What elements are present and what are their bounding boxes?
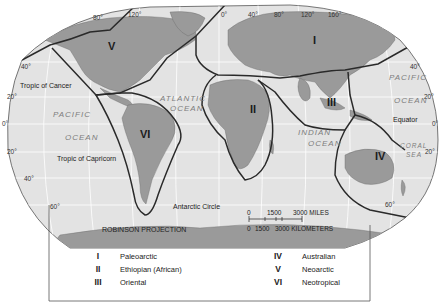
scale-km-1500: 1500 [255,225,269,232]
legend-numeral: I [88,251,108,261]
lon-label: 120° [128,11,141,18]
legend-name: Oriental [120,278,146,287]
legend-name: Australian [302,252,335,261]
tropic-of-capricorn-label: Tropic of Capricorn [57,155,116,162]
pacific-ocean-label: PACIFIC [389,73,427,82]
legend-name: Neoarctic [302,265,334,274]
lon-label: 120° [301,11,314,18]
lat-label-left: 0° [2,120,8,127]
lat-label-left: 60° [50,203,60,210]
lon-label: 160° [328,11,341,18]
realm-marker-oriental: III [327,96,336,108]
legend-name: Paleoarctic [120,252,157,261]
coral-sea-label: CORAL [400,142,427,149]
indian-ocean-label: INDIAN [298,128,331,137]
legend-numeral: V [268,264,288,274]
legend-name: Neotropical [302,278,340,287]
lat-label-left: 40° [21,63,31,70]
scale-miles-1500: 1500 [267,209,281,216]
lat-label-left: 40° [24,175,34,182]
atlantic-ocean-label: OCEAN [170,104,203,113]
legend-numeral: III [88,277,108,287]
tropic-of-cancer-label: Tropic of Cancer [20,82,71,89]
legend-name: Ethiopian (African) [120,265,182,274]
pacific-ocean-label: PACIFIC [53,110,91,119]
equator-label: Equator [393,116,418,123]
lon-label: 80° [93,14,103,21]
pacific-ocean-label: OCEAN [65,133,98,142]
lon-label: 40° [248,11,258,18]
coral-sea-label: SEA [406,151,422,158]
projection-label: ROBINSON PROJECTION [102,226,186,233]
realm-marker-neoarctic: V [108,40,115,52]
realm-marker-ethiopian: II [250,103,256,115]
realm-marker-neotropical: VI [140,128,150,140]
scale-miles-0: 0 [247,209,251,216]
atlantic-ocean-label: ATLANTIC [160,94,206,103]
lat-label-right: 60° [385,201,395,208]
antarctic-circle-label: Antarctic Circle [173,203,220,210]
lat-label-left: 20° [7,93,17,100]
lat-label-left: 20° [7,148,17,155]
world-map [0,0,439,305]
legend-numeral: IV [268,251,288,261]
legend-numeral: VI [268,277,288,287]
realm-marker-australian: IV [375,150,385,162]
lat-label-right: 0° [432,120,438,127]
scale-km-0: 0 [247,225,251,232]
lon-label: 0° [221,11,227,18]
lat-label-right: 20° [425,148,435,155]
lon-label: 80° [274,11,284,18]
scale-km-3000: 3000 KILOMETERS [275,225,333,232]
realm-marker-palearctic: I [313,34,316,46]
scale-miles-3000: 3000 MILES [293,209,329,216]
pacific-ocean-label: OCEAN [394,96,427,105]
indian-ocean-label: OCEAN [308,139,341,148]
lat-label-right: 40° [410,63,420,70]
legend-numeral: II [88,264,108,274]
